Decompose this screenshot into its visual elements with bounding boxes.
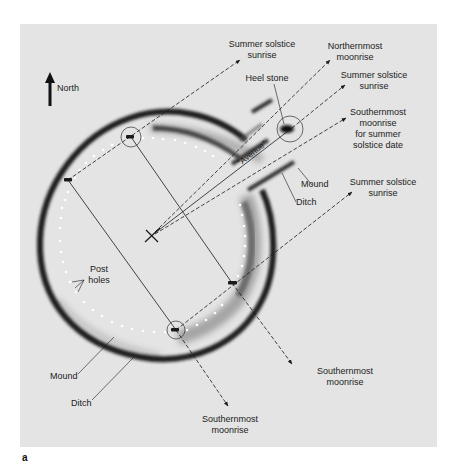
label-ditch-left: Ditch	[71, 398, 92, 409]
stonehenge-diagram: "Avenue" North Summer solstice sunrise N…	[0, 0, 454, 466]
label-northernmost-moonrise: Northernmost moonrise	[320, 41, 390, 63]
label-summer-solstice-sunrise-mid: Summer solstice sunrise	[334, 70, 414, 92]
label-post-holes: Post holes	[85, 264, 113, 286]
label-ditch-right: Ditch	[296, 197, 317, 208]
label-mound-right: Mound	[301, 179, 329, 190]
label-heel-stone: Heel stone	[242, 73, 292, 84]
panel-letter: a	[22, 452, 28, 463]
label-southernmost-moonrise-right: Southernmost moonrise	[307, 366, 383, 388]
label-mound-left: Mound	[50, 371, 78, 382]
label-summer-solstice-sunrise-right: Summer solstice sunrise	[343, 177, 423, 199]
label-southernmost-moonrise-bottom: Southernmost moonrise	[192, 414, 268, 436]
label-southernmost-moonrise-summer: Southernmost moonrise for summer solstic…	[343, 107, 413, 151]
label-summer-solstice-sunrise-top: Summer solstice sunrise	[222, 39, 302, 61]
north-label: North	[57, 83, 79, 94]
